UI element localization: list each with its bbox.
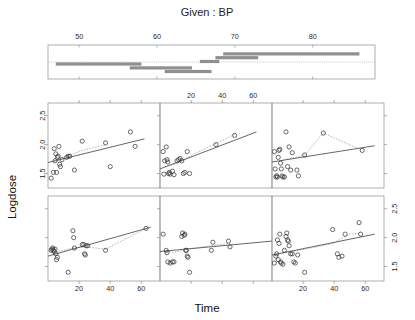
data-point	[172, 173, 176, 177]
data-point	[287, 145, 291, 149]
data-point	[187, 171, 191, 175]
data-point	[295, 168, 299, 172]
data-point	[278, 232, 282, 236]
panel-frame	[160, 103, 272, 188]
data-point	[296, 253, 300, 257]
x-axis-tick-label: 40	[106, 284, 114, 293]
data-point	[303, 270, 307, 274]
x-axis-tick-label: 20	[299, 284, 307, 293]
scatter-panel-bottom-right: 1.52.02.5204060	[272, 196, 399, 293]
panel-plot-area	[48, 226, 151, 274]
given-panel: 50607080	[48, 32, 375, 79]
panel-plot-area	[160, 231, 272, 275]
data-point	[287, 244, 291, 248]
panel-plot-area	[48, 130, 144, 180]
data-point	[360, 148, 364, 152]
y-axis-tick-label: 2.5	[390, 204, 399, 214]
data-point	[72, 168, 76, 172]
data-point	[80, 139, 84, 143]
data-point	[164, 145, 168, 149]
data-point	[290, 151, 294, 155]
x-axis-tick-label: 60	[137, 284, 145, 293]
data-point	[357, 221, 361, 225]
coplot-figure: Given : BP 50607080 1.52.02.520406020406…	[0, 0, 415, 320]
scatter-panel-top-middle: 204060	[157, 91, 272, 188]
given-interval-bar	[165, 70, 212, 73]
data-point	[278, 161, 282, 165]
given-interval-bar	[200, 60, 219, 63]
data-point	[133, 144, 137, 148]
data-point	[226, 239, 230, 243]
x-axis-tick-label: 20	[75, 284, 83, 293]
given-axis-tick-label: 70	[231, 32, 239, 41]
data-point	[185, 149, 189, 153]
panel-fit-line	[48, 139, 144, 163]
data-point	[57, 144, 61, 148]
data-point	[286, 239, 290, 243]
data-point	[233, 133, 237, 137]
data-point	[72, 236, 76, 240]
y-axis-tick-label: 2.5	[38, 111, 47, 121]
panel-lowess-curve	[281, 133, 362, 161]
data-point	[128, 130, 132, 134]
x-axis-tick-label: 60	[249, 91, 257, 100]
data-point	[331, 227, 335, 231]
given-interval-bar	[215, 56, 258, 59]
scatter-panel-matrix: 1.52.02.52040602040601.52.02.5204060	[38, 91, 399, 293]
y-axis-tick-label: 1.5	[390, 262, 399, 272]
given-interval-bar	[223, 52, 359, 55]
panel-frame	[160, 196, 272, 281]
data-point	[54, 170, 58, 174]
data-point	[359, 232, 363, 236]
y-axis-tick-label: 1.5	[38, 169, 47, 179]
given-interval-bar	[130, 66, 192, 69]
data-point	[108, 165, 112, 169]
panel-fit-line	[160, 132, 256, 169]
data-point	[282, 248, 286, 252]
data-point	[83, 253, 87, 257]
panel-plot-area	[272, 130, 375, 179]
data-point	[276, 155, 280, 159]
data-point	[284, 130, 288, 134]
data-point	[52, 147, 56, 151]
data-point	[272, 149, 276, 153]
panel-fit-line	[48, 227, 151, 256]
data-point	[277, 241, 281, 245]
panel-fit-line	[160, 241, 272, 251]
data-point	[289, 168, 293, 172]
data-point	[187, 270, 191, 274]
data-point	[343, 232, 347, 236]
given-interval-bar	[56, 62, 142, 65]
data-point	[273, 167, 277, 171]
panel-lowess-curve	[53, 228, 146, 252]
y-axis-title: Logdose	[6, 175, 18, 219]
data-point	[209, 248, 213, 252]
y-axis-tick-label: 2.0	[38, 140, 47, 150]
data-point	[272, 261, 276, 265]
x-axis-tick-label: 60	[361, 284, 369, 293]
given-panel-title: Given : BP	[181, 6, 234, 18]
scatter-panel-bottom-left: 204060	[45, 196, 160, 293]
data-point	[71, 229, 75, 233]
data-point	[211, 240, 215, 244]
coplot-canvas: Given : BP 50607080 1.52.02.520406020406…	[0, 0, 415, 320]
panel-plot-area	[272, 221, 375, 275]
x-axis-title: Time	[194, 302, 219, 314]
scatter-panel-top-right	[272, 100, 387, 188]
given-axis-tick-label: 80	[309, 32, 317, 41]
data-point	[161, 149, 165, 153]
data-point	[186, 255, 190, 259]
scatter-panel-top-left: 1.52.02.5	[38, 100, 160, 188]
data-point	[278, 147, 282, 151]
panel-frame	[272, 103, 384, 188]
data-point	[162, 172, 166, 176]
y-axis-tick-label: 2.0	[390, 233, 399, 243]
x-axis-tick-label: 20	[187, 91, 195, 100]
given-axis-tick-label: 50	[75, 32, 83, 41]
x-axis-tick-label: 40	[330, 284, 338, 293]
data-point	[103, 141, 107, 145]
data-point	[285, 165, 289, 169]
data-point	[296, 174, 300, 178]
x-axis-tick-label: 40	[218, 91, 226, 100]
given-axis-tick-label: 60	[153, 32, 161, 41]
